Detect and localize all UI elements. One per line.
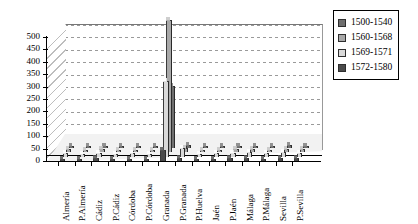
- x-axis-tick-label: Córdoba: [128, 190, 137, 221]
- bar-top-face: [200, 147, 203, 151]
- bar: [270, 146, 275, 149]
- x-axis-tick-label: Almería: [62, 192, 71, 222]
- bar: [96, 153, 101, 157]
- bar-top-face: [294, 155, 297, 159]
- bar-top-face: [287, 142, 290, 146]
- bar-top-face: [133, 147, 136, 151]
- x-axis-tick-label: P.Granada: [179, 184, 188, 221]
- bar: [278, 158, 283, 161]
- y-axis-tick-mark: [43, 161, 48, 162]
- bar-top-face: [186, 142, 189, 146]
- bar-chart: 050100150200250300350400450500 1500-1540…: [0, 0, 418, 224]
- bar-top-face: [244, 155, 247, 159]
- bar-top-face: [153, 143, 156, 147]
- bar-top-face: [113, 151, 116, 155]
- y-axis-tick-label: 350: [27, 69, 41, 78]
- x-axis-tick-mark: [108, 161, 109, 166]
- legend-item: 1569-1571: [338, 45, 392, 60]
- bar-top-face: [250, 146, 253, 150]
- bar: [220, 146, 225, 149]
- bar: [150, 150, 155, 153]
- bar-top-face: [214, 150, 217, 154]
- bar-top-face: [211, 156, 214, 160]
- x-axis-tick-label: P.Cádiz: [112, 194, 121, 221]
- bar: [294, 158, 299, 161]
- bar-top-face: [247, 149, 250, 153]
- y-axis-tick-mark: [43, 37, 48, 38]
- y-axis-tick-mark: [43, 124, 48, 125]
- bar: [83, 150, 88, 153]
- x-axis-tick-mark: [276, 161, 277, 166]
- x-axis-tick-mark: [175, 161, 176, 166]
- bar-top-face: [253, 143, 256, 147]
- legend-swatch-icon: [338, 19, 346, 27]
- x-axis-tick-label: Sevilla: [279, 196, 288, 221]
- bar-top-face: [144, 156, 147, 160]
- legend-label: 1569-1571: [351, 48, 392, 58]
- y-axis-tick-label: 450: [27, 44, 41, 53]
- x-axis-tick-label: P.Huelva: [195, 189, 204, 221]
- y-axis-tick-label: 0: [36, 156, 41, 165]
- bar-top-face: [86, 143, 89, 147]
- bar-top-face: [96, 150, 99, 154]
- bar: [264, 153, 269, 156]
- bar: [63, 153, 68, 156]
- bar-top-face: [66, 146, 69, 150]
- bar: [180, 148, 185, 156]
- bar: [93, 158, 98, 161]
- x-axis-tick-mark: [242, 161, 243, 166]
- bar-top-face: [303, 143, 306, 147]
- bar-top-face: [270, 143, 273, 147]
- gridline: [65, 99, 322, 100]
- bar-top-face: [180, 145, 183, 149]
- bar: [130, 153, 135, 156]
- gridline: [65, 112, 322, 113]
- bar: [197, 154, 202, 157]
- x-axis-tick-mark: [75, 161, 76, 166]
- y-axis-tick-label: 150: [27, 119, 41, 128]
- bar: [66, 149, 71, 152]
- bar: [287, 145, 292, 148]
- bar: [136, 146, 141, 149]
- bar-top-face: [69, 143, 72, 147]
- bar-top-face: [110, 156, 113, 160]
- bar: [214, 153, 219, 156]
- bar: [110, 159, 115, 162]
- bar: [211, 159, 216, 162]
- bar: [236, 146, 241, 149]
- bar-top-face: [281, 149, 284, 153]
- bar: [127, 159, 132, 162]
- bar-top-face: [284, 146, 287, 150]
- gridline: [65, 50, 322, 51]
- bar-top-face: [177, 155, 180, 159]
- bar: [144, 159, 149, 162]
- y-axis-tick-label: 100: [27, 131, 41, 140]
- bar: [69, 146, 74, 149]
- x-axis-tick-mark: [259, 161, 260, 166]
- gridline: [65, 62, 322, 63]
- y-axis-tick-mark: [43, 149, 48, 150]
- bar-top-face: [80, 151, 83, 155]
- bar: [86, 146, 91, 149]
- x-axis-tick-mark: [91, 161, 92, 166]
- bar-top-face: [119, 143, 122, 147]
- bar-top-face: [83, 147, 86, 151]
- y-axis-tick-label: 250: [27, 94, 41, 103]
- plot-back-wall: [65, 24, 323, 150]
- bar: [160, 150, 165, 161]
- bar-top-face: [230, 150, 233, 154]
- bar: [80, 154, 85, 157]
- y-axis-tick-label: 200: [27, 106, 41, 115]
- bar-top-face: [227, 155, 230, 159]
- bar: [303, 146, 308, 149]
- x-axis-tick-label: Cádiz: [95, 200, 104, 221]
- x-axis-tick-label: P.Córdoba: [145, 184, 154, 221]
- bar: [200, 150, 205, 153]
- gridline: [65, 87, 322, 88]
- x-axis-tick-label: P.Jaén: [229, 199, 238, 221]
- x-axis-tick-label: Jaén: [212, 205, 221, 221]
- y-axis-tick-label: 50: [31, 144, 40, 153]
- bar-top-face: [233, 146, 236, 150]
- bar-top-face: [166, 17, 169, 21]
- bar-top-face: [127, 156, 130, 160]
